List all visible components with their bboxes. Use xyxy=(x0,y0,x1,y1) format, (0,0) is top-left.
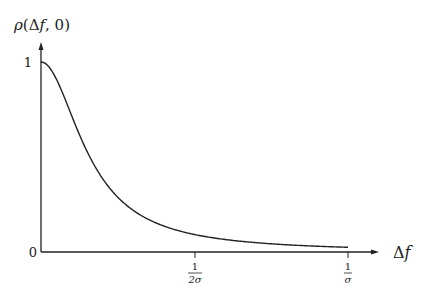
y-tick-label-1: 1 xyxy=(24,55,32,70)
x-tick-label-one-num: 1 xyxy=(345,261,351,272)
chart-canvas: ρ(Δf, 0) 1 0 1 2σ 1 σ Δf xyxy=(0,0,433,298)
x-tick-label-half-num: 1 xyxy=(192,261,198,272)
x-axis-label: Δf xyxy=(393,243,414,262)
y-axis-arrow-icon xyxy=(39,42,44,50)
x-tick-label-half-den: 2σ xyxy=(187,274,202,285)
y-axis-label: ρ(Δf, 0) xyxy=(13,16,70,34)
data-curve xyxy=(41,62,348,247)
x-tick-label-one-den: σ xyxy=(345,274,353,285)
x-axis-arrow-icon xyxy=(371,250,379,255)
y-tick-label-0: 0 xyxy=(29,245,37,260)
